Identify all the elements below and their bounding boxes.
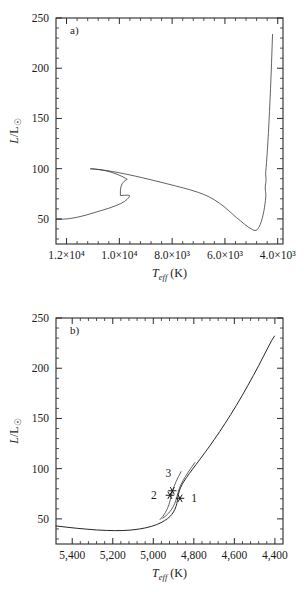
data-point-label-3: 3	[165, 467, 171, 479]
data-point-label-2: 2	[151, 489, 157, 501]
x-axis-title: Teff (K)	[152, 266, 187, 282]
track-evolutionary-track	[56, 34, 273, 230]
track-rgb-track-main	[56, 336, 274, 531]
figure-two-panel-hr-diagram: 1.2×10⁴1.0×10⁴8.0×10³6.0×10³4.0×10³50100…	[0, 0, 304, 592]
x-tick-label: 1.2×10⁴	[48, 249, 84, 261]
y-tick-label: 250	[32, 312, 50, 324]
panel-b: 5,4005,2005,0004,8004,6004,4005010015020…	[0, 300, 304, 592]
x-tick-label: 4,400	[262, 549, 288, 562]
y-axis-title: L/L☉	[7, 118, 23, 144]
data-point-label-1: 1	[191, 492, 197, 504]
plot-frame	[56, 318, 283, 544]
y-tick-label: 150	[32, 112, 50, 124]
y-tick-label: 50	[38, 513, 50, 525]
x-tick-label: 5,000	[140, 549, 166, 562]
y-tick-label: 150	[32, 412, 50, 424]
x-tick-label: 8.0×10³	[154, 249, 190, 261]
x-tick-label: 5,400	[59, 549, 85, 562]
panel-label: a)	[70, 24, 79, 37]
plot-frame	[56, 18, 283, 244]
x-axis-title: Teff (K)	[152, 566, 187, 582]
y-tick-label: 100	[32, 163, 50, 175]
x-tick-label: 5,200	[100, 549, 126, 562]
y-tick-label: 250	[32, 12, 50, 24]
panel-a-plot: 1.2×10⁴1.0×10⁴8.0×10³6.0×10³4.0×10³50100…	[0, 0, 304, 292]
x-tick-label: 4,600	[221, 549, 247, 562]
x-tick-label: 4,800	[181, 549, 207, 562]
y-tick-label: 200	[32, 362, 50, 374]
y-tick-label: 50	[38, 213, 50, 225]
panel-label: b)	[70, 324, 80, 337]
x-tick-label: 4.0×10³	[260, 249, 296, 261]
x-tick-label: 6.0×10³	[207, 249, 243, 261]
x-tick-label: 1.0×10⁴	[101, 249, 137, 261]
data-point-marker-2	[166, 492, 174, 499]
panel-a: 1.2×10⁴1.0×10⁴8.0×10³6.0×10³4.0×10³50100…	[0, 0, 304, 292]
panel-b-plot: 5,4005,2005,0004,8004,6004,4005010015020…	[0, 300, 304, 592]
y-axis-title: L/L☉	[7, 418, 23, 444]
data-point-marker-3	[168, 487, 176, 494]
y-tick-label: 100	[32, 463, 50, 475]
y-tick-label: 200	[32, 62, 50, 74]
